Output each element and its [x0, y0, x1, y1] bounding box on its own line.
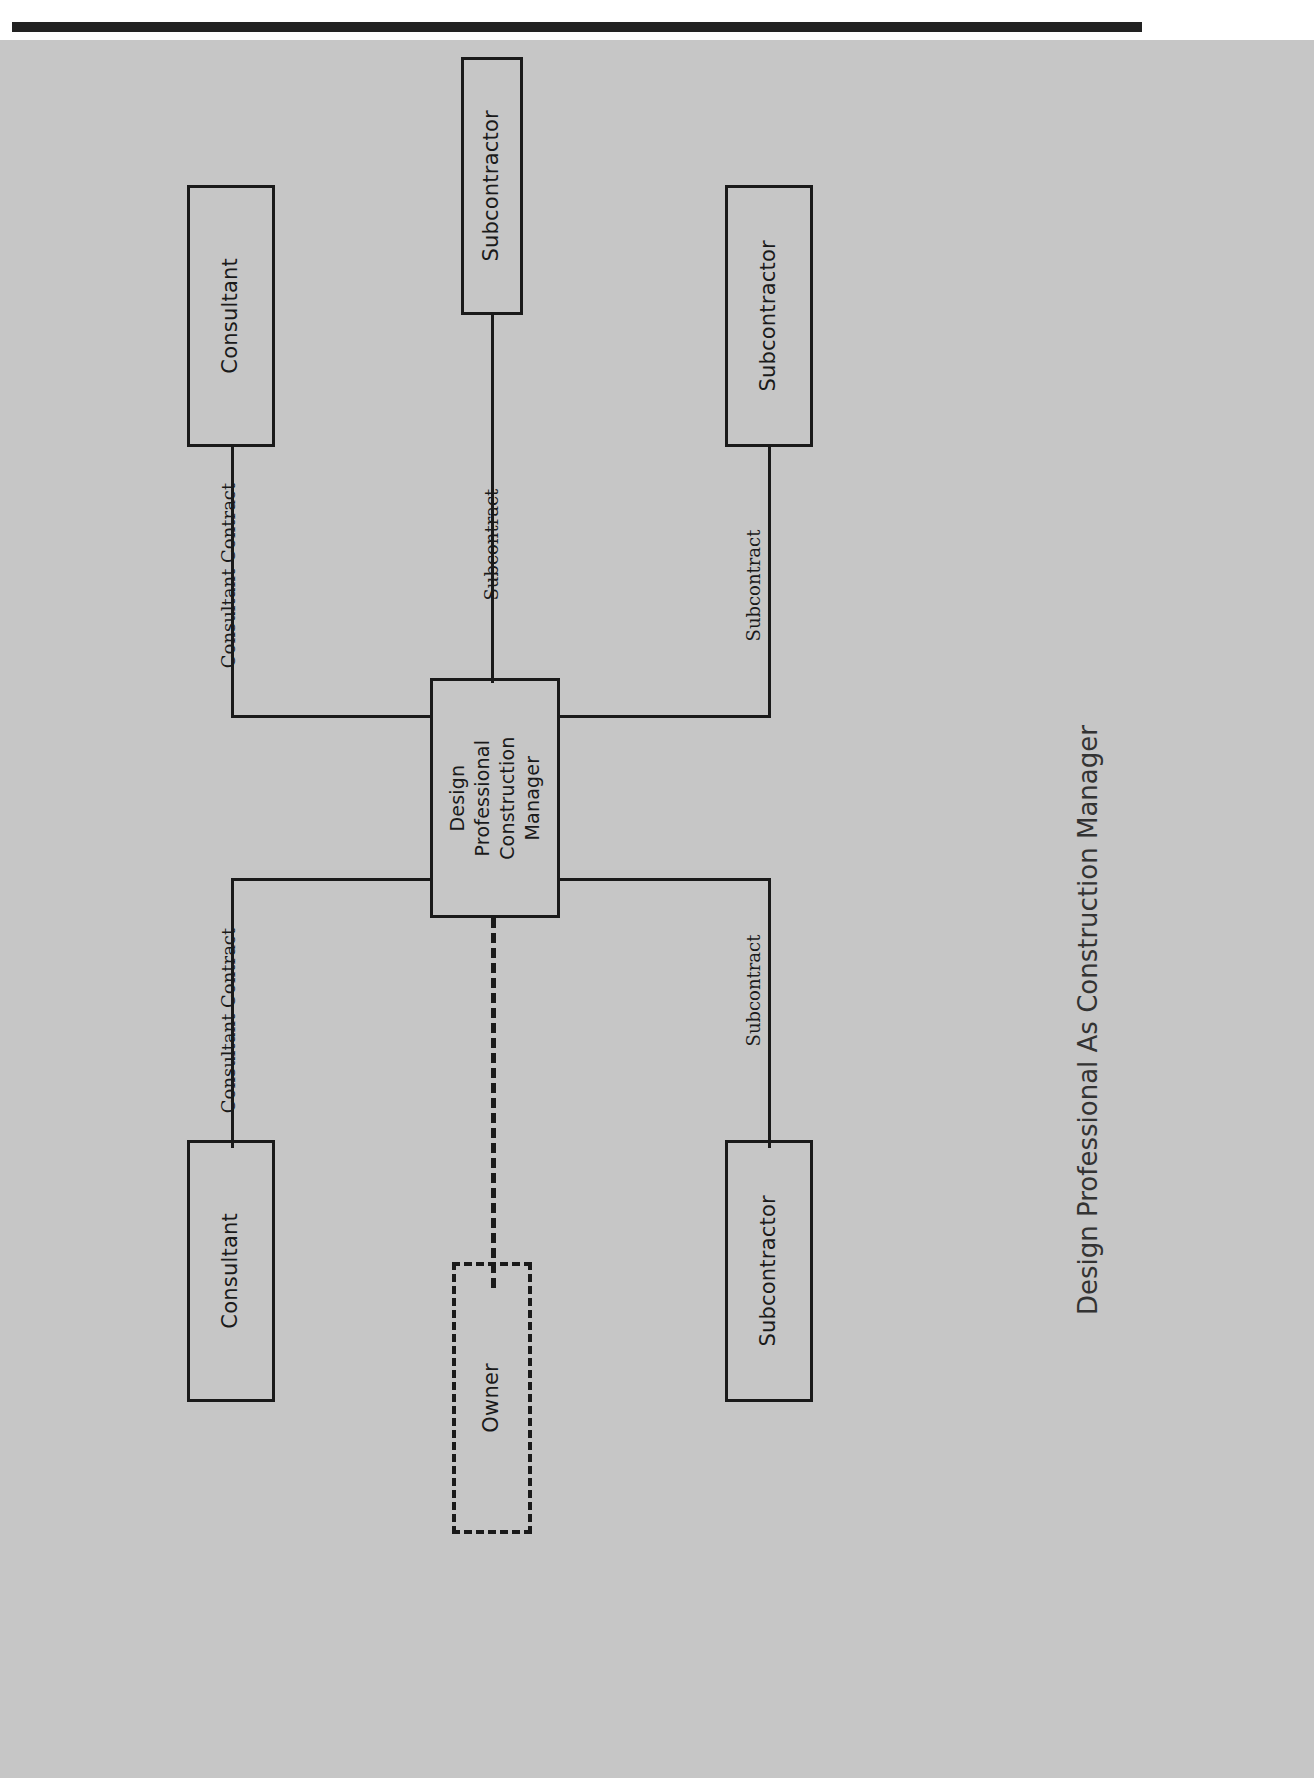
- node-owner-label: Owner: [478, 1363, 506, 1433]
- edge-label-consultant-top-left: Consultant Contract: [218, 476, 239, 676]
- node-subcontractor-top[interactable]: Subcontractor: [461, 57, 523, 315]
- node-consultant-top-left-label: Consultant: [217, 258, 245, 374]
- node-owner[interactable]: Owner: [452, 1262, 532, 1534]
- edge-consultant-bottom-left-horizontal: [231, 878, 431, 881]
- edge-subcontract-top-right-vertical: [768, 445, 771, 717]
- diagram-caption: Design Professional As Construction Mana…: [1073, 815, 1103, 1315]
- node-design-professional-construction-manager-label: Design Professional Construction Manager: [445, 736, 545, 859]
- scan-artifact-bar: [12, 22, 1142, 32]
- node-consultant-top-left[interactable]: Consultant: [187, 185, 275, 447]
- document-page: Subcontract Consultant Contract Subcontr…: [0, 0, 1314, 1778]
- edge-consultant-top-left-horizontal: [231, 715, 431, 718]
- node-design-professional-construction-manager[interactable]: Design Professional Construction Manager: [430, 678, 560, 918]
- node-subcontractor-bottom[interactable]: Subcontractor: [725, 1140, 813, 1402]
- node-subcontractor-top-right-label: Subcontractor: [755, 240, 783, 391]
- node-consultant-bottom-left-label: Consultant: [217, 1213, 245, 1329]
- edge-label-subcontract-bottom: Subcontract: [743, 916, 764, 1066]
- edge-subcontract-bottom-vertical: [768, 878, 771, 1148]
- edge-label-subcontract-top-right: Subcontract: [743, 511, 764, 661]
- diagram-canvas: Subcontract Consultant Contract Subcontr…: [0, 40, 1314, 1778]
- node-consultant-bottom-left[interactable]: Consultant: [187, 1140, 275, 1402]
- edge-label-subcontract-top: Subcontract: [481, 451, 502, 601]
- node-subcontractor-bottom-label: Subcontractor: [755, 1195, 783, 1346]
- edge-subcontract-top-right-horizontal: [560, 715, 771, 718]
- edge-label-consultant-bottom-left: Consultant Contract: [218, 921, 239, 1121]
- node-subcontractor-top-label: Subcontractor: [478, 110, 506, 261]
- edge-owner-dashed: [491, 918, 496, 1288]
- node-subcontractor-top-right[interactable]: Subcontractor: [725, 185, 813, 447]
- edge-subcontract-bottom-horizontal: [560, 878, 771, 881]
